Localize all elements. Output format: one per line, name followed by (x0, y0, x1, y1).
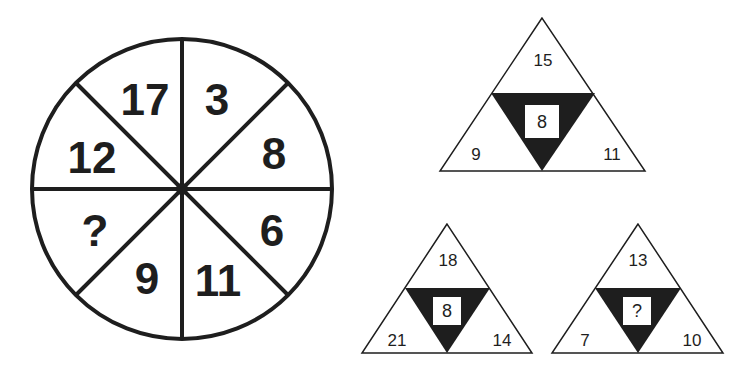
wheel-segment-left-top: 12 (68, 133, 117, 182)
triangle-1-right-value: 11 (603, 145, 621, 164)
triangle-2-top-value: 18 (439, 251, 458, 270)
wheel-segment-left-bottom-unknown: ? (82, 206, 109, 255)
triangle-2-center-value: 8 (442, 301, 452, 321)
triangle-2-right-value: 14 (493, 331, 512, 350)
wheel-segment-right-bottom: 6 (260, 206, 284, 255)
wheel-segment-top-left: 17 (121, 75, 170, 124)
triangle-2: 18 21 14 8 (362, 224, 532, 353)
number-wheel (32, 39, 332, 339)
triangle-1-top-value: 15 (534, 51, 553, 70)
wheel-segment-top-right: 3 (205, 75, 229, 124)
triangle-1-left-value: 9 (471, 145, 480, 164)
wheel-hub (178, 185, 186, 193)
triangle-3-top-value: 13 (629, 251, 648, 270)
triangle-2-left-value: 21 (388, 331, 407, 350)
triangle-3-left-value: 7 (580, 331, 589, 350)
wheel-segment-bottom-right: 11 (195, 256, 242, 305)
wheel-segment-right-top: 8 (262, 129, 286, 178)
wheel-segment-bottom-left: 9 (135, 254, 159, 303)
puzzle-canvas: 17 3 8 6 11 9 ? 12 15 9 11 8 18 21 14 8 (0, 0, 753, 371)
triangle-1: 15 9 11 8 (440, 18, 645, 171)
triangle-3-right-value: 10 (683, 331, 702, 350)
triangle-3: 13 7 10 ? (552, 224, 723, 353)
triangle-1-center-value: 8 (537, 112, 547, 132)
triangle-3-center-unknown: ? (632, 301, 642, 321)
